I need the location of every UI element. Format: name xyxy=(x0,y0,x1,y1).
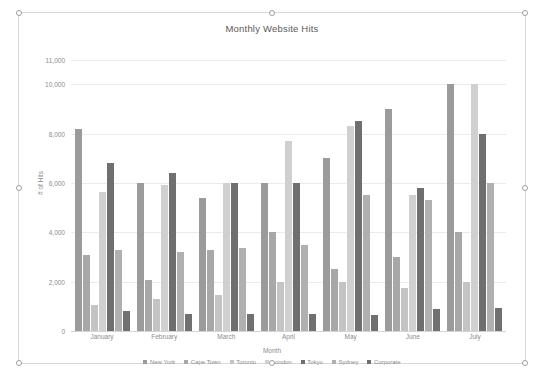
chart-title: Monthly Website Hits xyxy=(19,23,525,34)
legend-label: Cape Town xyxy=(191,359,221,365)
x-axis-tick-label: February xyxy=(133,333,195,340)
resize-handle-middle-right[interactable] xyxy=(522,185,528,191)
legend-label: Sydney xyxy=(338,359,358,365)
bar[interactable] xyxy=(309,314,316,331)
x-axis-tick-label: March xyxy=(195,333,257,340)
x-axis-labels: JanuaryFebruaryMarchAprilMayJuneJuly xyxy=(71,333,506,340)
bar[interactable] xyxy=(91,305,98,331)
y-axis-tick-label: 2,000 xyxy=(49,278,65,285)
y-axis-tick-label: 4,000 xyxy=(49,229,65,236)
plot-area: # of Hits 02,0004,0006,0008,00010,00011,… xyxy=(71,35,506,331)
legend-swatch-icon xyxy=(332,360,336,364)
bar-group xyxy=(133,35,195,331)
bar[interactable] xyxy=(231,183,238,331)
bar[interactable] xyxy=(239,248,246,331)
legend-item[interactable]: Tokyo xyxy=(301,359,323,365)
legend-item[interactable]: Corporate xyxy=(367,359,400,365)
resize-handle-middle-left[interactable] xyxy=(16,185,22,191)
bar[interactable] xyxy=(207,250,214,331)
bar[interactable] xyxy=(363,195,370,331)
x-axis-tick-label: July xyxy=(444,333,506,340)
bar[interactable] xyxy=(161,185,168,331)
x-axis-tick-label: June xyxy=(382,333,444,340)
bar[interactable] xyxy=(495,308,502,331)
resize-handle-bottom-center[interactable] xyxy=(269,360,275,366)
bar[interactable] xyxy=(247,314,254,331)
y-axis-tick-label: 8,000 xyxy=(49,130,65,137)
bar[interactable] xyxy=(355,121,362,331)
legend-swatch-icon xyxy=(367,360,371,364)
legend-label: Corporate xyxy=(374,359,401,365)
legend-item[interactable]: Sydney xyxy=(332,359,359,365)
bar[interactable] xyxy=(425,200,432,331)
legend-item[interactable]: Toronto xyxy=(230,359,257,365)
bar[interactable] xyxy=(107,163,114,331)
bar[interactable] xyxy=(331,269,338,331)
bar[interactable] xyxy=(293,183,300,331)
y-axis-tick-label: 6,000 xyxy=(49,180,65,187)
y-axis-tick-label: 0 xyxy=(61,328,65,335)
bar[interactable] xyxy=(455,232,462,331)
bar[interactable] xyxy=(123,311,130,331)
bar[interactable] xyxy=(185,314,192,331)
bar[interactable] xyxy=(99,192,106,331)
bar[interactable] xyxy=(487,183,494,331)
bar[interactable] xyxy=(417,188,424,331)
chart-object[interactable]: Monthly Website Hits # of Hits 02,0004,0… xyxy=(18,12,526,364)
bar[interactable] xyxy=(323,158,330,331)
bar[interactable] xyxy=(75,129,82,331)
bar[interactable] xyxy=(401,288,408,331)
bar[interactable] xyxy=(177,252,184,331)
bar[interactable] xyxy=(409,195,416,331)
bar[interactable] xyxy=(339,282,346,331)
legend-item[interactable]: Cape Town xyxy=(184,359,220,365)
resize-handle-top-center[interactable] xyxy=(269,10,275,16)
bar-group xyxy=(257,35,319,331)
x-axis-tick-label: April xyxy=(257,333,319,340)
bar[interactable] xyxy=(261,183,268,331)
bar[interactable] xyxy=(285,141,292,331)
legend-swatch-icon xyxy=(184,360,188,364)
bar[interactable] xyxy=(371,315,378,331)
bar[interactable] xyxy=(269,232,276,331)
legend-swatch-icon xyxy=(230,360,234,364)
legend-swatch-icon xyxy=(301,360,305,364)
bar[interactable] xyxy=(471,84,478,331)
bar-group xyxy=(320,35,382,331)
resize-handle-bottom-left[interactable] xyxy=(16,360,22,366)
bar[interactable] xyxy=(83,255,90,331)
bar[interactable] xyxy=(277,282,284,331)
y-axis-title: # of Hits xyxy=(37,171,44,195)
legend-swatch-icon xyxy=(143,360,147,364)
bar[interactable] xyxy=(385,109,392,331)
bar[interactable] xyxy=(115,250,122,331)
bar[interactable] xyxy=(199,198,206,331)
bar[interactable] xyxy=(153,299,160,331)
bar[interactable] xyxy=(215,295,222,331)
bar-series-layer xyxy=(71,35,506,331)
bar[interactable] xyxy=(145,280,152,331)
bar[interactable] xyxy=(447,84,454,331)
bar[interactable] xyxy=(223,183,230,331)
bar[interactable] xyxy=(169,173,176,331)
bar-group xyxy=(444,35,506,331)
legend-label: Tokyo xyxy=(307,359,323,365)
bar[interactable] xyxy=(463,282,470,331)
legend-label: New York xyxy=(150,359,175,365)
bar[interactable] xyxy=(433,309,440,331)
bar[interactable] xyxy=(393,257,400,331)
bar[interactable] xyxy=(479,134,486,331)
bar[interactable] xyxy=(137,183,144,331)
y-axis-tick-label: 11,000 xyxy=(46,56,65,63)
bar[interactable] xyxy=(347,126,354,331)
resize-handle-bottom-right[interactable] xyxy=(522,360,528,366)
bar-group xyxy=(71,35,133,331)
x-axis-tick-label: January xyxy=(71,333,133,340)
resize-handle-top-right[interactable] xyxy=(522,10,528,16)
gridline xyxy=(71,331,506,332)
legend-label: Toronto xyxy=(236,359,256,365)
resize-handle-top-left[interactable] xyxy=(16,10,22,16)
bar[interactable] xyxy=(301,245,308,331)
bar-group xyxy=(382,35,444,331)
legend-item[interactable]: New York xyxy=(143,359,175,365)
